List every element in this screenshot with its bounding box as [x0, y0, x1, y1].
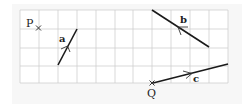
label-a: a — [59, 33, 66, 44]
vector-diagram: P a b c Q — [0, 0, 246, 107]
label-c: c — [193, 73, 199, 84]
label-q: Q — [147, 87, 156, 100]
label-b: b — [180, 14, 187, 25]
grid-canvas: P a b c Q — [0, 0, 246, 107]
label-p: P — [26, 17, 34, 30]
point-q: Q — [147, 81, 156, 101]
